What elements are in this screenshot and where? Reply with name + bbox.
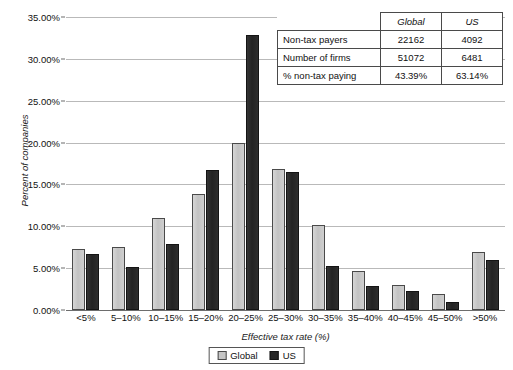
table-row: % non-tax paying43.39%63.14% [278, 67, 503, 85]
table-cell-us: 63.14% [442, 67, 503, 85]
chart-legend: Global US [208, 347, 305, 364]
x-axis-tick-label: 25–30% [266, 312, 306, 323]
table-cell-us: 4092 [442, 31, 503, 49]
y-axis-tick-mark [61, 268, 65, 269]
y-axis-tick-label: 35.00% [28, 12, 60, 23]
legend-label-global: Global [230, 350, 257, 361]
table-row: Number of firms510726481 [278, 49, 503, 67]
bar-us [206, 170, 219, 310]
table-body: Non-tax payers221624092Number of firms51… [278, 31, 503, 85]
y-axis-tick-label: 25.00% [28, 95, 60, 106]
bar-global [192, 194, 205, 310]
table-header-us: US [442, 13, 503, 31]
y-axis-tick-mark [61, 58, 65, 59]
table-row: Non-tax payers221624092 [278, 31, 503, 49]
bar-us [166, 244, 179, 310]
table-cell-label: Number of firms [278, 49, 381, 67]
table-corner-cell [278, 13, 381, 31]
y-axis-tick-label: 0.00% [33, 305, 60, 316]
bar-global [432, 294, 445, 310]
bar-global [352, 271, 365, 310]
x-axis-baseline [66, 310, 505, 311]
bar-global [312, 225, 325, 310]
x-axis-title: Effective tax rate (%) [66, 331, 505, 342]
legend-label-us: US [283, 350, 296, 361]
table-cell-us: 6481 [442, 49, 503, 67]
x-axis-tick-label: 35–40% [345, 312, 385, 323]
y-axis-tick-mark [61, 310, 65, 311]
table-cell-global: 51072 [381, 49, 442, 67]
bar-global [392, 285, 405, 310]
y-axis-tick-mark [61, 226, 65, 227]
table-cell-label: % non-tax paying [278, 67, 381, 85]
legend-swatch-global-icon [217, 351, 226, 360]
x-axis-tick-label: >50% [465, 312, 505, 323]
bar-us [446, 302, 459, 310]
x-axis-tick-label: 20–25% [226, 312, 266, 323]
legend-item-global: Global [217, 350, 257, 361]
x-axis-tick-label: 30–35% [305, 312, 345, 323]
legend-item-us: US [270, 350, 296, 361]
y-axis-tick-mark [61, 17, 65, 18]
y-axis-tick-label: 10.00% [28, 221, 60, 232]
table-header-row: Global US [278, 13, 503, 31]
y-axis-tick-label: 15.00% [28, 179, 60, 190]
bar-global [472, 252, 485, 310]
x-axis-tick-label: 40–45% [385, 312, 425, 323]
y-axis-tick-label: 30.00% [28, 53, 60, 64]
y-axis-tick-mark [61, 142, 65, 143]
bar-global [232, 143, 245, 310]
bar-global [112, 247, 125, 310]
bar-us [126, 267, 139, 310]
bar-global [272, 169, 285, 310]
bar-us [366, 286, 379, 310]
bar-group [226, 17, 266, 310]
bar-group [146, 17, 186, 310]
bar-us [486, 260, 499, 310]
bar-group [186, 17, 226, 310]
x-axis-tick-labels: <5%5–10%10–15%15–20%20–25%25–30%30–35%35… [66, 312, 505, 323]
bar-us [406, 291, 419, 310]
table-cell-global: 43.39% [381, 67, 442, 85]
x-axis-tick-label: 10–15% [146, 312, 186, 323]
y-axis-tick-mark [61, 100, 65, 101]
x-axis-tick-label: <5% [66, 312, 106, 323]
table-cell-label: Non-tax payers [278, 31, 381, 49]
bar-us [246, 35, 259, 310]
y-axis-tick-label: 5.00% [33, 263, 60, 274]
x-axis-tick-label: 5–10% [106, 312, 146, 323]
x-axis-tick-label: 45–50% [425, 312, 465, 323]
y-axis-tick-label: 20.00% [28, 137, 60, 148]
y-axis-tick-mark [61, 184, 65, 185]
bar-group [66, 17, 106, 310]
legend-swatch-us-icon [270, 351, 279, 360]
bar-global [152, 218, 165, 310]
x-axis-tick-label: 15–20% [186, 312, 226, 323]
chart-figure: Percent of companies 0.00%5.00%10.00%15.… [0, 0, 513, 370]
bar-us [326, 266, 339, 310]
table-header-global: Global [381, 13, 442, 31]
bar-group [106, 17, 146, 310]
bar-us [86, 254, 99, 310]
bar-global [72, 249, 85, 310]
table-cell-global: 22162 [381, 31, 442, 49]
summary-table: Global US Non-tax payers221624092Number … [277, 12, 503, 85]
bar-us [286, 172, 299, 310]
